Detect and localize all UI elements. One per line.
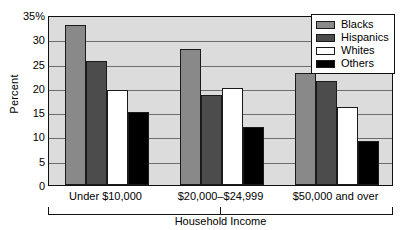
bar-blacks-3 — [295, 73, 316, 185]
bar-others-2 — [243, 127, 264, 185]
bracket-tick-right — [392, 207, 393, 215]
x-axis-title: Household Income — [48, 215, 393, 227]
legend-swatch-icon — [316, 34, 335, 42]
bar-others-3 — [358, 141, 379, 185]
bar-hispanics-1 — [86, 61, 107, 185]
x-axis-bracket — [48, 207, 393, 215]
y-tick-label: 35% — [1, 11, 45, 22]
legend-label: Others — [341, 58, 374, 69]
y-tick-label: 25 — [1, 60, 45, 71]
legend-item-others: Others — [316, 57, 389, 70]
y-tick-label: 10 — [1, 132, 45, 143]
y-tick-label: 30 — [1, 35, 45, 46]
x-category-label: $20,000–$24,999 — [163, 190, 278, 202]
bar-blacks-2 — [180, 49, 201, 185]
legend-swatch-icon — [316, 60, 335, 68]
bar-others-1 — [128, 112, 149, 185]
x-category-label: Under $10,000 — [48, 190, 163, 202]
bar-hispanics-2 — [201, 95, 222, 185]
bar-whites-1 — [107, 90, 128, 185]
bar-blacks-1 — [65, 25, 86, 185]
legend-item-whites: Whites — [316, 44, 389, 57]
y-tick-label: 5 — [1, 157, 45, 168]
bar-hispanics-3 — [316, 81, 337, 185]
bracket-tick-middle — [220, 207, 221, 215]
x-category-label: $50,000 and over — [278, 190, 393, 202]
legend-label: Hispanics — [341, 32, 389, 43]
bar-whites-2 — [222, 88, 243, 185]
legend-label: Whites — [341, 45, 375, 56]
y-tick-label: 15 — [1, 108, 45, 119]
legend-label: Blacks — [341, 19, 373, 30]
bar-chart: Percent 35%302520151050 BlacksHispanicsW… — [0, 0, 408, 230]
y-tick-label: 20 — [1, 84, 45, 95]
legend-swatch-icon — [316, 47, 335, 55]
bar-whites-3 — [337, 107, 358, 185]
legend-swatch-icon — [316, 21, 335, 29]
y-tick-label: 0 — [1, 181, 45, 192]
bracket-tick-left — [48, 207, 49, 215]
legend-item-blacks: Blacks — [316, 18, 389, 31]
legend-item-hispanics: Hispanics — [316, 31, 389, 44]
y-axis-tick-labels: 35%302520151050 — [0, 0, 45, 230]
chart-legend: BlacksHispanicsWhitesOthers — [311, 14, 395, 74]
